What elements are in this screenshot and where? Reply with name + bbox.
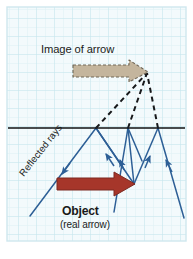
label-real-arrow: (real arrow) (60, 219, 110, 230)
label-object: Object (62, 205, 99, 219)
mirror-reflection-diagram: Image of arrow Reflected rays Object (re… (0, 0, 193, 259)
label-image-of-arrow: Image of arrow (41, 43, 114, 56)
